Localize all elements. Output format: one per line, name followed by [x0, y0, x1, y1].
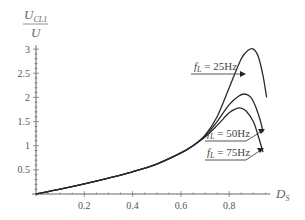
curve-50hz — [36, 94, 263, 194]
x-axis-label: DS — [275, 186, 289, 203]
y-tick-label: 0.5 — [18, 164, 31, 175]
y-tick-label: 2 — [25, 92, 30, 103]
annotation-75hz: fL = 75Hz — [205, 146, 264, 160]
x-tick-label: 0.6 — [175, 200, 188, 211]
y-tick-label: 1 — [25, 140, 30, 151]
svg-text:fL = 75Hz: fL = 75Hz — [207, 146, 250, 160]
x-axis: 0.20.40.60.8 — [32, 191, 270, 211]
annotation-25hz: fL = 25Hz — [191, 60, 246, 77]
svg-text:U: U — [31, 25, 42, 40]
svg-text:fL = 25Hz: fL = 25Hz — [194, 60, 237, 74]
y-axis-label: UCL1 U — [23, 7, 48, 40]
chart-canvas: UCL1 U 0.511.522.53 0.20.40.60.8 DS fL =… — [0, 0, 305, 220]
y-tick-label: 2.5 — [18, 68, 31, 79]
x-tick-label: 0.2 — [78, 200, 91, 211]
y-axis: 0.511.522.53 — [18, 44, 40, 196]
y-tick-label: 3 — [25, 44, 30, 55]
y-tick-label: 1.5 — [18, 116, 31, 127]
svg-text:UCL1: UCL1 — [24, 7, 47, 24]
arrow-icon — [240, 71, 246, 77]
x-tick-label: 0.8 — [223, 200, 236, 211]
x-tick-label: 0.4 — [126, 200, 139, 211]
